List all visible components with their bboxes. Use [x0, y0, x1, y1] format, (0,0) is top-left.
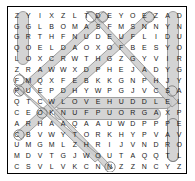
- grid-cell-r3c14[interactable]: O: [173, 42, 185, 53]
- grid-cell-r6c6[interactable]: B: [81, 75, 93, 86]
- grid-cell-r10c13[interactable]: P: [162, 118, 174, 129]
- grid-cell-r5c8[interactable]: H: [104, 64, 116, 75]
- grid-cell-r4c9[interactable]: Z: [115, 53, 127, 64]
- grid-cell-r6c12[interactable]: H: [150, 75, 162, 86]
- grid-cell-r14c5[interactable]: K: [69, 161, 81, 172]
- grid-cell-r11c10[interactable]: Y: [127, 129, 139, 140]
- grid-cell-r9c7[interactable]: P: [92, 107, 104, 118]
- grid-cell-r10c8[interactable]: U: [104, 118, 116, 129]
- grid-cell-r4c6[interactable]: T: [81, 53, 93, 64]
- grid-cell-r12c4[interactable]: L: [57, 140, 69, 151]
- grid-cell-r1c8[interactable]: F: [104, 21, 116, 32]
- grid-cell-r13c0[interactable]: M: [11, 150, 23, 161]
- grid-cell-r3c4[interactable]: D: [57, 42, 69, 53]
- grid-cell-r0c6[interactable]: T: [81, 10, 93, 21]
- grid-cell-r6c7[interactable]: K: [92, 75, 104, 86]
- grid-cell-r14c12[interactable]: C: [150, 161, 162, 172]
- grid-cell-r5c2[interactable]: A: [34, 64, 46, 75]
- grid-cell-r9c12[interactable]: A: [150, 107, 162, 118]
- grid-cell-r10c6[interactable]: A: [81, 118, 93, 129]
- grid-cell-r13c4[interactable]: G: [57, 150, 69, 161]
- grid-cell-r14c4[interactable]: V: [57, 161, 69, 172]
- grid-cell-r12c6[interactable]: H: [81, 140, 93, 151]
- grid-cell-r1c5[interactable]: M: [69, 21, 81, 32]
- grid-cell-r4c2[interactable]: X: [34, 53, 46, 64]
- grid-cell-r3c7[interactable]: X: [92, 42, 104, 53]
- grid-cell-r12c5[interactable]: Z: [69, 140, 81, 151]
- grid-cell-r5c7[interactable]: P: [92, 64, 104, 75]
- grid-cell-r4c0[interactable]: L: [11, 53, 23, 64]
- grid-cell-r9c0[interactable]: C: [11, 107, 23, 118]
- grid-cell-r2c6[interactable]: U: [81, 32, 93, 43]
- grid-cell-r1c11[interactable]: N: [139, 21, 151, 32]
- grid-cell-r2c5[interactable]: N: [69, 32, 81, 43]
- grid-cell-r0c9[interactable]: Y: [115, 10, 127, 21]
- grid-cell-r6c14[interactable]: Y: [173, 75, 185, 86]
- grid-cell-r0c10[interactable]: O: [127, 10, 139, 21]
- grid-cell-r8c12[interactable]: L: [150, 96, 162, 107]
- grid-cell-r8c4[interactable]: L: [57, 96, 69, 107]
- grid-cell-r13c12[interactable]: Q: [150, 150, 162, 161]
- grid-cell-r11c1[interactable]: B: [23, 129, 35, 140]
- grid-cell-r6c2[interactable]: Q: [34, 75, 46, 86]
- grid-cell-r3c12[interactable]: S: [150, 42, 162, 53]
- grid-cell-r5c10[interactable]: J: [127, 64, 139, 75]
- grid-cell-r2c14[interactable]: U: [173, 32, 185, 43]
- grid-cell-r9c6[interactable]: F: [81, 107, 93, 118]
- grid-cell-r8c1[interactable]: T: [23, 96, 35, 107]
- grid-cell-r2c11[interactable]: L: [139, 32, 151, 43]
- grid-cell-r13c2[interactable]: V: [34, 150, 46, 161]
- grid-cell-r1c1[interactable]: G: [23, 21, 35, 32]
- grid-cell-r8c7[interactable]: E: [92, 96, 104, 107]
- grid-cell-r14c14[interactable]: Z: [173, 161, 185, 172]
- grid-cell-r12c2[interactable]: G: [34, 140, 46, 151]
- grid-cell-r12c1[interactable]: M: [23, 140, 35, 151]
- grid-cell-r10c2[interactable]: H: [34, 118, 46, 129]
- grid-cell-r8c2[interactable]: C: [34, 96, 46, 107]
- grid-cell-r9c3[interactable]: K: [46, 107, 58, 118]
- grid-cell-r4c4[interactable]: R: [57, 53, 69, 64]
- grid-cell-r5c0[interactable]: Z: [11, 64, 23, 75]
- grid-cell-r4c7[interactable]: H: [92, 53, 104, 64]
- grid-cell-r11c7[interactable]: R: [92, 129, 104, 140]
- grid-cell-r5c5[interactable]: X: [69, 64, 81, 75]
- grid-cell-r5c3[interactable]: W: [46, 64, 58, 75]
- grid-cell-r8c6[interactable]: V: [81, 96, 93, 107]
- grid-cell-r11c11[interactable]: P: [139, 129, 151, 140]
- grid-cell-r11c0[interactable]: C: [11, 129, 23, 140]
- grid-cell-r10c7[interactable]: A: [92, 118, 104, 129]
- grid-cell-r10c5[interactable]: Q: [69, 118, 81, 129]
- grid-cell-r11c5[interactable]: T: [69, 129, 81, 140]
- grid-cell-r7c9[interactable]: G: [115, 86, 127, 97]
- grid-cell-r12c3[interactable]: M: [46, 140, 58, 151]
- grid-cell-r11c12[interactable]: V: [150, 129, 162, 140]
- grid-cell-r7c7[interactable]: W: [92, 86, 104, 97]
- grid-cell-r3c5[interactable]: A: [69, 42, 81, 53]
- grid-cell-r2c8[interactable]: E: [104, 32, 116, 43]
- grid-cell-r12c13[interactable]: R: [162, 140, 174, 151]
- grid-cell-r5c9[interactable]: E: [115, 64, 127, 75]
- grid-cell-r8c9[interactable]: U: [115, 96, 127, 107]
- grid-cell-r13c1[interactable]: D: [23, 150, 35, 161]
- grid-cell-r5c6[interactable]: D: [81, 64, 93, 75]
- grid-cell-r4c8[interactable]: G: [104, 53, 116, 64]
- grid-cell-r13c5[interactable]: J: [69, 150, 81, 161]
- grid-cell-r7c5[interactable]: H: [69, 86, 81, 97]
- grid-cell-r10c10[interactable]: D: [127, 118, 139, 129]
- grid-cell-r0c3[interactable]: X: [46, 10, 58, 21]
- grid-cell-r0c11[interactable]: E: [139, 10, 151, 21]
- grid-cell-r0c1[interactable]: Y: [23, 10, 35, 21]
- grid-cell-r7c3[interactable]: P: [46, 86, 58, 97]
- grid-cell-r4c14[interactable]: R: [173, 53, 185, 64]
- grid-cell-r3c3[interactable]: L: [46, 42, 58, 53]
- grid-cell-r10c14[interactable]: E: [173, 118, 185, 129]
- grid-cell-r5c1[interactable]: R: [23, 64, 35, 75]
- grid-cell-r7c8[interactable]: P: [104, 86, 116, 97]
- grid-cell-r9c5[interactable]: U: [69, 107, 81, 118]
- grid-cell-r12c10[interactable]: V: [127, 140, 139, 151]
- grid-cell-r1c6[interactable]: A: [81, 21, 93, 32]
- grid-cell-r1c0[interactable]: G: [11, 21, 23, 32]
- grid-cell-r12c9[interactable]: J: [115, 140, 127, 151]
- grid-cell-r3c8[interactable]: O: [104, 42, 116, 53]
- grid-cell-r2c13[interactable]: D: [162, 32, 174, 43]
